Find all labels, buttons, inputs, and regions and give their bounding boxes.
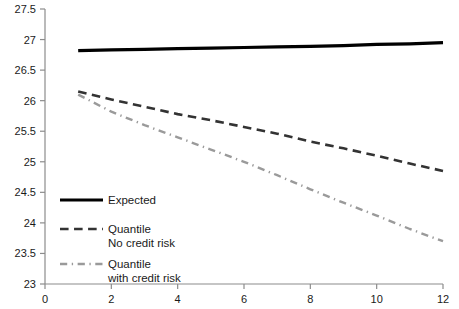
legend-label-3: Quantile [108,258,151,270]
y-axis-tick-label: 27.5 [15,3,36,15]
legend-label-1: Expected [108,194,156,206]
x-axis-tick-label: 2 [108,293,114,305]
y-axis-tick-label: 27 [24,34,36,46]
y-axis-tick-label: 26 [24,95,36,107]
chart-container: 2323.52424.52525.52626.52727.5024681012E… [0,0,459,309]
y-axis-tick-label: 23 [24,278,36,290]
y-axis-tick-label: 24.5 [15,186,36,198]
line-chart: 2323.52424.52525.52626.52727.5024681012E… [0,0,459,309]
y-axis-tick-label: 24 [24,217,36,229]
y-axis-tick-label: 26.5 [15,64,36,76]
x-axis-tick-label: 4 [175,293,181,305]
x-axis-tick-label: 6 [241,293,247,305]
x-axis-tick-label: 8 [307,293,313,305]
series-line-1 [78,43,443,51]
y-axis-tick-label: 23.5 [15,247,36,259]
legend-sublabel-2: No credit risk [108,237,175,249]
y-axis-tick-label: 25 [24,156,36,168]
legend-label-2: Quantile [108,223,151,235]
series-line-3 [78,95,443,242]
x-axis-tick-label: 12 [437,293,449,305]
legend-sublabel-3: with credit risk [107,272,181,284]
x-axis-tick-label: 0 [42,293,48,305]
series-line-2 [78,92,443,171]
y-axis-tick-label: 25.5 [15,125,36,137]
x-axis-tick-label: 10 [371,293,383,305]
